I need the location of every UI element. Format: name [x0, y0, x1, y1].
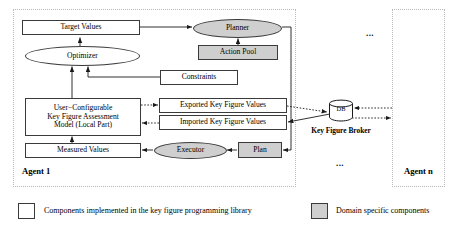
node-exported-label: Exported Key Figure Values — [180, 101, 266, 110]
node-executor[interactable]: Executor — [154, 142, 227, 159]
agent-n-container — [392, 9, 445, 187]
legend-text-library: Components implemented in the key figure… — [44, 206, 252, 215]
node-action-pool[interactable]: Action Pool — [198, 45, 278, 60]
legend-swatch-domain — [311, 203, 328, 219]
agent-n-label: Agent n — [404, 166, 433, 176]
ellipsis-bottom-mark: ... — [336, 158, 344, 168]
node-db-label: DB — [328, 105, 354, 112]
node-constraints-label: Constraints — [182, 73, 217, 82]
node-planner-label: Planner — [226, 24, 249, 33]
node-action-pool-label: Action Pool — [220, 48, 257, 57]
key-figure-broker-label: Key Figure Broker — [303, 126, 379, 135]
node-key-figure-model-line3: Model (Local Part) — [54, 121, 112, 130]
node-exported-key-figure-values[interactable]: Exported Key Figure Values — [159, 98, 287, 113]
node-imported-label: Imported Key Figure Values — [180, 118, 266, 127]
ellipsis-top-mark: ... — [366, 28, 374, 38]
diagram-canvas: Target Values Optimizer Planner Action P… — [0, 0, 454, 233]
node-optimizer-label: Optimizer — [67, 52, 98, 61]
node-optimizer[interactable]: Optimizer — [25, 46, 140, 66]
node-db-cylinder[interactable]: DB — [328, 99, 354, 123]
legend-text-domain: Domain specific components — [336, 206, 429, 215]
node-target-values-label: Target Values — [60, 23, 101, 32]
node-measured-values[interactable]: Measured Values — [25, 143, 141, 158]
legend-swatch-library — [18, 203, 35, 219]
node-key-figure-model[interactable]: User−Configurable Key Figure Assessment … — [25, 98, 141, 136]
node-plan-label: Plan — [253, 146, 267, 155]
node-measured-values-label: Measured Values — [57, 146, 109, 155]
node-constraints[interactable]: Constraints — [160, 70, 238, 85]
node-executor-label: Executor — [177, 146, 204, 155]
node-plan[interactable]: Plan — [238, 142, 282, 158]
agent-1-label: Agent 1 — [22, 166, 50, 176]
node-planner[interactable]: Planner — [193, 19, 282, 38]
node-target-values[interactable]: Target Values — [22, 20, 140, 35]
node-imported-key-figure-values[interactable]: Imported Key Figure Values — [159, 115, 287, 130]
